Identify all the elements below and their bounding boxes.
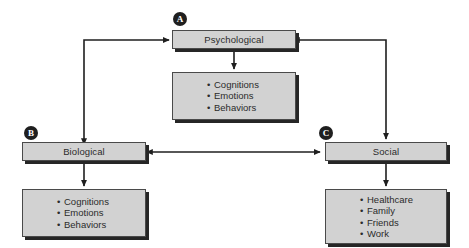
bullet-icon: • (57, 219, 64, 231)
node-social-label: Social (373, 147, 399, 157)
list-item-label: Behaviors (64, 219, 106, 230)
list-item: •Behaviors (57, 219, 145, 231)
node-biological-items: •Cognitions •Emotions •Behaviors (22, 189, 146, 237)
list-item-label: Work (367, 228, 389, 239)
list-item: •Friends (360, 217, 446, 229)
list-item-label: Healthcare (367, 194, 413, 205)
node-social[interactable]: Social (325, 142, 447, 161)
list-item: •Healthcare (360, 194, 446, 206)
list-item-label: Emotions (64, 207, 104, 218)
list-item: •Family (360, 205, 446, 217)
node-psychological-items: •Cognitions •Emotions •Behaviors (172, 72, 296, 120)
bullet-icon: • (57, 207, 64, 219)
biological-bullet-list: •Cognitions •Emotions •Behaviors (23, 196, 145, 231)
list-item-label: Cognitions (214, 79, 259, 90)
list-item-label: Friends (367, 217, 399, 228)
bullet-icon: • (57, 196, 64, 208)
bullet-icon: • (360, 194, 367, 206)
list-item-label: Behaviors (214, 102, 256, 113)
bullet-icon: • (207, 79, 214, 91)
bullet-icon: • (360, 217, 367, 229)
list-item: •Emotions (207, 90, 295, 102)
list-item: •Cognitions (57, 196, 145, 208)
node-social-items: •Healthcare •Family •Friends •Work (325, 189, 447, 244)
list-item: •Cognitions (207, 79, 295, 91)
badge-a: A (173, 12, 187, 26)
bullet-icon: • (360, 205, 367, 217)
list-item: •Behaviors (207, 102, 295, 114)
list-item-label: Family (367, 205, 395, 216)
bullet-icon: • (360, 228, 367, 240)
bullet-icon: • (207, 102, 214, 114)
diagram-canvas: A B C Psychological •Cognitions •Emotion… (0, 0, 469, 248)
social-bullet-list: •Healthcare •Family •Friends •Work (326, 194, 446, 240)
node-biological[interactable]: Biological (22, 142, 146, 161)
list-item-label: Emotions (214, 90, 254, 101)
connector-psychological-social (299, 40, 386, 139)
list-item: •Emotions (57, 207, 145, 219)
list-item-label: Cognitions (64, 196, 109, 207)
node-psychological[interactable]: Psychological (172, 30, 296, 49)
badge-b: B (24, 126, 38, 140)
node-biological-label: Biological (63, 147, 105, 157)
psychological-bullet-list: •Cognitions •Emotions •Behaviors (173, 79, 295, 114)
connector-psychological-biological (84, 40, 169, 139)
bullet-icon: • (207, 90, 214, 102)
node-psychological-label: Psychological (204, 35, 263, 45)
list-item: •Work (360, 228, 446, 240)
badge-c: C (319, 126, 333, 140)
